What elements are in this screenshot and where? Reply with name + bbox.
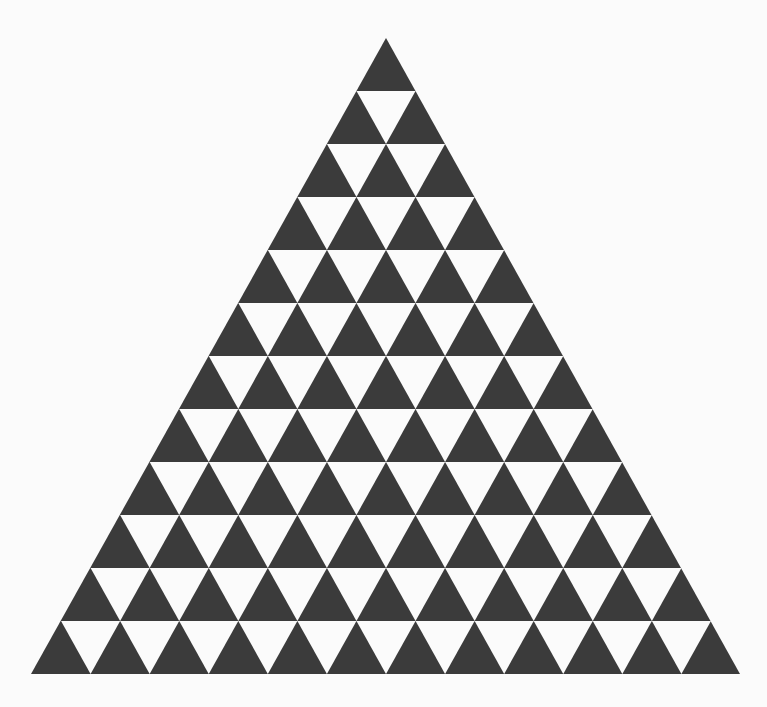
canvas <box>0 0 767 707</box>
triangle-tessellation-figure <box>0 0 767 707</box>
triangle-grid <box>31 38 740 674</box>
